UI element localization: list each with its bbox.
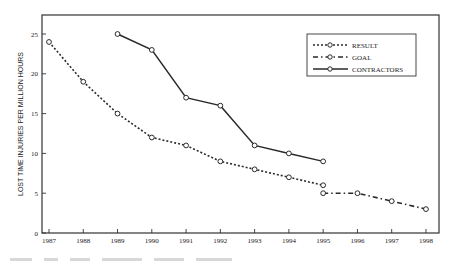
data-point-marker: [252, 167, 257, 172]
x-tick-label: 1988: [76, 237, 91, 245]
legend-label: GOAL: [352, 54, 371, 62]
data-point-marker: [321, 191, 326, 196]
caption-fragment: [102, 258, 142, 261]
data-point-marker: [355, 191, 360, 196]
legend: RESULTGOALCONTRACTORS: [307, 34, 416, 76]
data-point-marker: [321, 159, 326, 164]
legend-label: RESULT: [352, 42, 379, 50]
x-tick-label: 1998: [419, 237, 434, 245]
data-point-marker: [218, 103, 223, 108]
caption-fragment: [44, 258, 58, 261]
series-line: [118, 34, 324, 161]
data-point-marker: [184, 143, 189, 148]
legend-swatch-marker: [328, 43, 332, 47]
x-tick-label: 1994: [282, 237, 297, 245]
legend-swatch-marker: [328, 67, 332, 71]
caption-fragment: [10, 258, 32, 261]
data-point-marker: [252, 143, 257, 148]
y-tick-label: 20: [31, 70, 39, 78]
x-tick-label: 1987: [42, 237, 57, 245]
data-point-marker: [389, 199, 394, 204]
series-goal: [321, 191, 429, 212]
data-point-marker: [218, 159, 223, 164]
data-point-marker: [149, 135, 154, 140]
caption-fragment: [196, 258, 232, 261]
series-result: [47, 40, 326, 188]
x-tick-label: 1993: [248, 237, 263, 245]
caption-fragment: [154, 258, 184, 261]
x-tick-label: 1991: [179, 237, 194, 245]
figure-caption-cropped: [10, 258, 270, 263]
legend-swatch-marker: [328, 55, 332, 59]
x-tick-label: 1996: [350, 237, 365, 245]
series-line: [49, 42, 323, 185]
series-contractors: [115, 32, 325, 164]
y-tick-label: 10: [31, 150, 39, 158]
data-point-marker: [115, 111, 120, 116]
x-tick-label: 1989: [111, 237, 126, 245]
x-tick-label: 1992: [213, 237, 228, 245]
data-point-marker: [286, 175, 291, 180]
data-point-marker: [424, 207, 429, 212]
data-point-marker: [115, 32, 120, 37]
data-point-marker: [184, 95, 189, 100]
x-tick-label: 1997: [385, 237, 400, 245]
line-chart: 0510152025 19871988198919901991199219931…: [0, 0, 453, 263]
data-point-marker: [286, 151, 291, 156]
caption-fragment: [70, 258, 90, 261]
x-tick-label: 1995: [316, 237, 331, 245]
y-tick-label: 15: [31, 110, 39, 118]
y-tick-label: 5: [35, 190, 39, 198]
x-tick-label: 1990: [145, 237, 160, 245]
y-tick-label: 25: [31, 31, 39, 39]
data-point-marker: [149, 48, 154, 53]
data-point-marker: [321, 183, 326, 188]
y-axis-title: LOST TIME INJURIES PER MILLION HOURS: [17, 52, 24, 196]
x-axis: 1987198819891990199119921993199419951996…: [42, 229, 433, 245]
y-tick-label: 0: [35, 230, 39, 238]
data-point-marker: [81, 79, 86, 84]
series-line: [323, 193, 426, 209]
data-point-marker: [47, 40, 52, 45]
y-axis: 0510152025: [31, 31, 46, 238]
legend-label: CONTRACTORS: [352, 66, 403, 74]
